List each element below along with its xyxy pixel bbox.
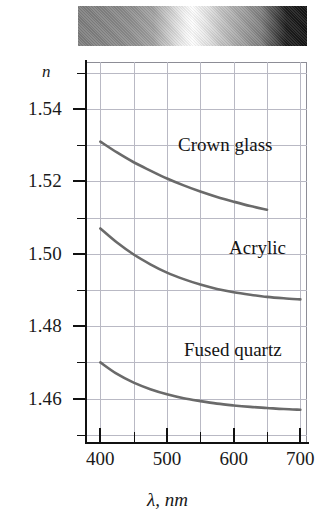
y-axis-tick <box>73 325 86 327</box>
x-axis-tick-label: 600 <box>204 449 264 468</box>
y-axis-tick <box>73 253 86 255</box>
y-axis-tick <box>73 398 86 400</box>
curve-label-acrylic: Acrylic <box>229 238 286 257</box>
y-axis-minor-tick <box>77 435 86 436</box>
y-axis-minor-tick <box>77 145 86 146</box>
x-axis-tick-label: 500 <box>137 449 197 468</box>
x-axis-tick-label: 700 <box>270 449 330 468</box>
curve-fused-quartz <box>100 362 300 409</box>
y-axis-tick-label: 1.50 <box>28 244 62 263</box>
x-axis-tick <box>233 428 235 443</box>
x-axis-tick-label: 400 <box>70 449 130 468</box>
x-axis-tick <box>166 428 168 443</box>
x-axis-minor-tick <box>267 432 268 443</box>
y-axis-minor-tick <box>77 73 86 74</box>
y-axis-tick <box>73 108 86 110</box>
curve-label-fused-quartz: Fused quartz <box>184 340 282 359</box>
y-axis-tick-label: 1.52 <box>28 171 62 190</box>
y-axis-tick-label: 1.48 <box>28 316 62 335</box>
x-axis-tick <box>99 428 101 443</box>
y-axis-tick-label: 1.46 <box>28 389 62 408</box>
refractive-index-dispersion-figure: n λ, nm Crown glass Acrylic Fused quartz… <box>0 0 335 529</box>
curve-label-crown-glass: Crown glass <box>178 135 272 154</box>
y-axis-tick <box>73 180 86 182</box>
x-axis-minor-tick <box>200 432 201 443</box>
y-axis-minor-tick <box>77 362 86 363</box>
y-axis-tick-label: 1.54 <box>28 99 62 118</box>
y-axis-minor-tick <box>77 218 86 219</box>
y-axis-minor-tick <box>77 290 86 291</box>
x-axis-tick <box>299 428 301 443</box>
x-axis-minor-tick <box>134 432 135 443</box>
